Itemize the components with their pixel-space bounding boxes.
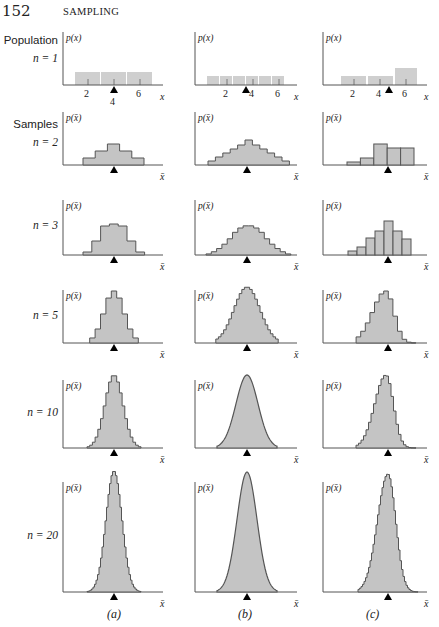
- x-axis-label: x̄: [423, 454, 429, 465]
- x-axis-label: x̄: [423, 598, 429, 609]
- y-axis-label: p(x): [65, 33, 81, 44]
- mean-marker-icon: [384, 344, 392, 351]
- histogram-a-n2: [83, 144, 144, 165]
- population-bar: [246, 76, 258, 85]
- mean-marker-icon: [384, 166, 392, 173]
- histogram-a-n20: [87, 472, 141, 592]
- mean-marker-icon: [110, 449, 118, 456]
- tick-label: 6: [402, 88, 407, 99]
- x-axis-label: x: [293, 91, 299, 102]
- y-axis-label: p(x̄): [197, 113, 213, 124]
- tick-label: 2: [350, 88, 355, 99]
- x-axis-label: x̄: [423, 349, 429, 360]
- x-axis-label: x̄: [159, 171, 165, 182]
- population-bar: [233, 76, 245, 85]
- density-curve-b-n10: [217, 375, 277, 448]
- population-bar: [207, 76, 219, 85]
- mean-marker-icon: [384, 449, 392, 456]
- histogram-bar-c-n3: [357, 247, 366, 255]
- population-bar: [259, 76, 271, 85]
- tick-label: 4: [110, 96, 115, 107]
- histogram-bar-c-n3: [348, 251, 357, 255]
- x-axis-label: x: [159, 91, 165, 102]
- y-axis-label: p(x̄): [65, 201, 81, 212]
- mean-marker-icon: [110, 166, 118, 173]
- x-axis-label: x̄: [159, 349, 165, 360]
- mean-marker-icon: [243, 593, 251, 600]
- mean-marker-icon: [110, 86, 118, 93]
- histogram-bar-c-n2: [360, 158, 373, 165]
- histogram-bar-c-n2: [387, 148, 400, 165]
- x-axis-label: x̄: [159, 454, 165, 465]
- y-axis-label: p(x): [197, 33, 213, 44]
- x-axis-label: x̄: [293, 171, 299, 182]
- tick-label: 4: [376, 88, 381, 99]
- mean-marker-icon: [110, 593, 118, 600]
- x-axis-label: x̄: [293, 261, 299, 272]
- y-axis-label: p(x̄): [65, 113, 81, 124]
- sampling-distribution-figure: 246p(x)x246p(x)x246p(x)xp(x̄)x̄p(x̄)x̄p(…: [0, 0, 439, 627]
- tick-label: 6: [136, 88, 141, 99]
- x-axis-label: x̄: [423, 171, 429, 182]
- histogram-bar-c-n2: [374, 144, 387, 165]
- y-axis-label: p(x̄): [325, 291, 341, 302]
- histogram-bar-c-n3: [375, 231, 384, 255]
- histogram-c-n20: [358, 474, 418, 592]
- histogram-bar-c-n3: [384, 221, 393, 255]
- y-axis-label: p(x̄): [197, 201, 213, 212]
- x-axis-label: x̄: [293, 349, 299, 360]
- histogram-b-n5: [216, 287, 278, 343]
- histogram-a-n3: [83, 224, 145, 255]
- y-axis-label: p(x): [325, 33, 341, 44]
- x-axis-label: x̄: [423, 261, 429, 272]
- y-axis-label: p(x̄): [325, 201, 341, 212]
- x-axis-label: x̄: [159, 261, 165, 272]
- histogram-b-n2: [208, 140, 289, 165]
- y-axis-label: p(x̄): [197, 381, 213, 392]
- histogram-bar-c-n3: [402, 239, 411, 255]
- tick-label: 2: [223, 88, 228, 99]
- histogram-a-n10: [87, 376, 141, 448]
- x-axis-label: x̄: [293, 454, 299, 465]
- density-curve-b-n20: [217, 472, 277, 592]
- x-axis-label: x̄: [159, 598, 165, 609]
- y-axis-label: p(x̄): [325, 483, 341, 494]
- histogram-b-n3: [206, 226, 291, 255]
- population-bar: [272, 76, 284, 85]
- population-bar: [220, 76, 232, 85]
- mean-marker-icon: [384, 593, 392, 600]
- mean-marker-icon: [385, 86, 393, 93]
- mean-marker-icon: [384, 256, 392, 263]
- tick-label: 2: [84, 88, 89, 99]
- y-axis-label: p(x̄): [197, 291, 213, 302]
- y-axis-label: p(x̄): [197, 483, 213, 494]
- tick-label: 4: [249, 88, 254, 99]
- histogram-bar-c-n3: [393, 231, 402, 255]
- histogram-bar-c-n2: [401, 148, 414, 165]
- histogram-a-n5: [90, 291, 139, 343]
- x-axis-label: x̄: [293, 598, 299, 609]
- histogram-c-n5: [356, 291, 416, 343]
- tick-label: 6: [275, 88, 280, 99]
- mean-marker-icon: [243, 166, 251, 173]
- mean-marker-icon: [110, 256, 118, 263]
- y-axis-label: p(x̄): [325, 381, 341, 392]
- y-axis-label: p(x̄): [65, 381, 81, 392]
- y-axis-label: p(x̄): [65, 291, 81, 302]
- x-axis-label: x: [423, 91, 429, 102]
- histogram-bar-c-n2: [347, 162, 360, 165]
- y-axis-label: p(x̄): [65, 483, 81, 494]
- histogram-c-n10: [356, 375, 416, 448]
- y-axis-label: p(x̄): [325, 113, 341, 124]
- mean-marker-icon: [110, 344, 118, 351]
- mean-marker-icon: [243, 256, 251, 263]
- mean-marker-icon: [243, 449, 251, 456]
- mean-marker-icon: [243, 344, 251, 351]
- histogram-bar-c-n3: [366, 238, 375, 255]
